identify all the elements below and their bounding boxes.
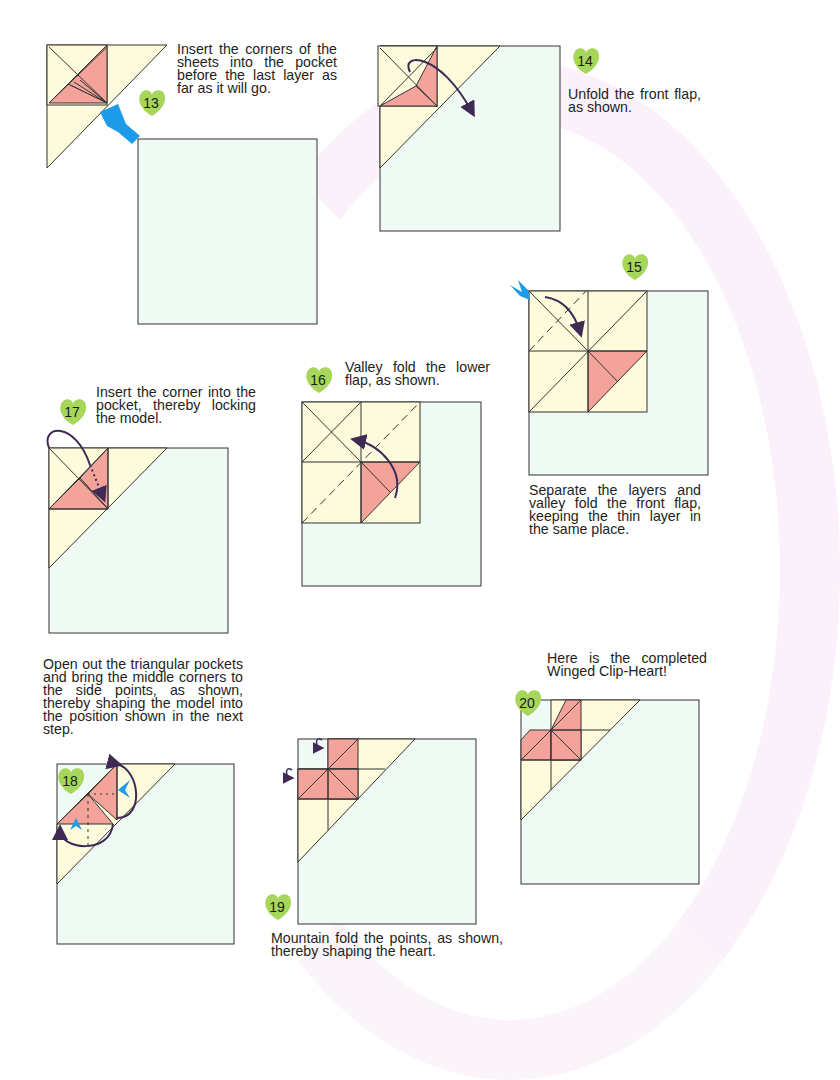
step-20-text: Here is the completed Winged Clip-Heart! xyxy=(547,652,707,678)
step-17-diagram xyxy=(48,431,228,633)
step-16-text: Valley fold the lower flap, as shown. xyxy=(345,361,490,387)
step-14-text: Unfold the front flap, as shown. xyxy=(568,88,701,114)
step-19-text: Mountain fold the points, as shown, ther… xyxy=(271,932,503,958)
step-badge-20: 20 xyxy=(512,689,544,717)
step-badge-17: 17 xyxy=(57,398,89,426)
step-19-diagram xyxy=(287,739,477,924)
step-18-text: Open out the triangular pockets and brin… xyxy=(43,658,243,736)
step-badge-14: 14 xyxy=(570,47,602,75)
step-15-text: Separate the layers and valley fold the … xyxy=(529,484,701,536)
step-13-text: Insert the corners of the sheets into th… xyxy=(177,43,337,95)
blue-insert-arrow xyxy=(100,104,140,144)
step-badge-18: 18 xyxy=(55,767,87,795)
step-20-diagram xyxy=(521,700,699,884)
step-badge-19: 19 xyxy=(262,893,294,921)
step-14-diagram xyxy=(378,46,560,231)
step-badge-15: 15 xyxy=(619,253,651,281)
step-17-text: Insert the corner into the pocket, there… xyxy=(96,386,256,425)
step-15-diagram xyxy=(510,280,708,475)
step-badge-16: 16 xyxy=(303,366,335,394)
step-16-diagram xyxy=(302,402,481,586)
step-badge-13: 13 xyxy=(136,89,168,117)
